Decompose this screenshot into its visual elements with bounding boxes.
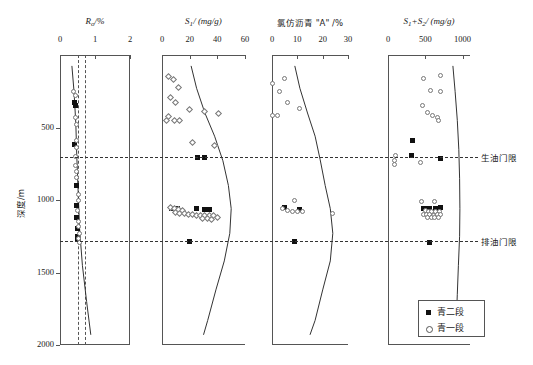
s1s2-panel-point-1-0: [421, 76, 426, 81]
oil-generation-threshold-line: [60, 157, 478, 158]
s1s2-panel-point-1-13: [419, 199, 424, 204]
legend-marker-1: [426, 326, 433, 333]
s1s2-panel-point-0-0: [410, 138, 415, 143]
s1s2-panel-point-1-4: [420, 103, 425, 108]
s1s2-panel-point-1-3: [438, 89, 443, 94]
s1s2-panel-point-1-2: [428, 88, 433, 93]
s1s2-panel-point-1-29: [436, 215, 441, 220]
s1s2-panel-point-1-14: [432, 199, 437, 204]
s1s2-panel-point-1-12: [418, 160, 423, 165]
legend-label-0: 青二段: [437, 305, 464, 318]
oil-generation-threshold-label: 生油门限: [481, 151, 517, 163]
s1s2-panel-point-1-1: [438, 73, 443, 78]
oil-expulsion-threshold-label: 排油门限: [481, 235, 517, 247]
oil-expulsion-threshold-line: [60, 241, 478, 242]
legend-label-1: 青一段: [437, 321, 464, 334]
legend-marker-0: [426, 310, 431, 315]
geochemistry-depth-profile-figure: 深度/m500100015002000Ro/%012S1/ (mg/g)0204…: [0, 0, 533, 365]
